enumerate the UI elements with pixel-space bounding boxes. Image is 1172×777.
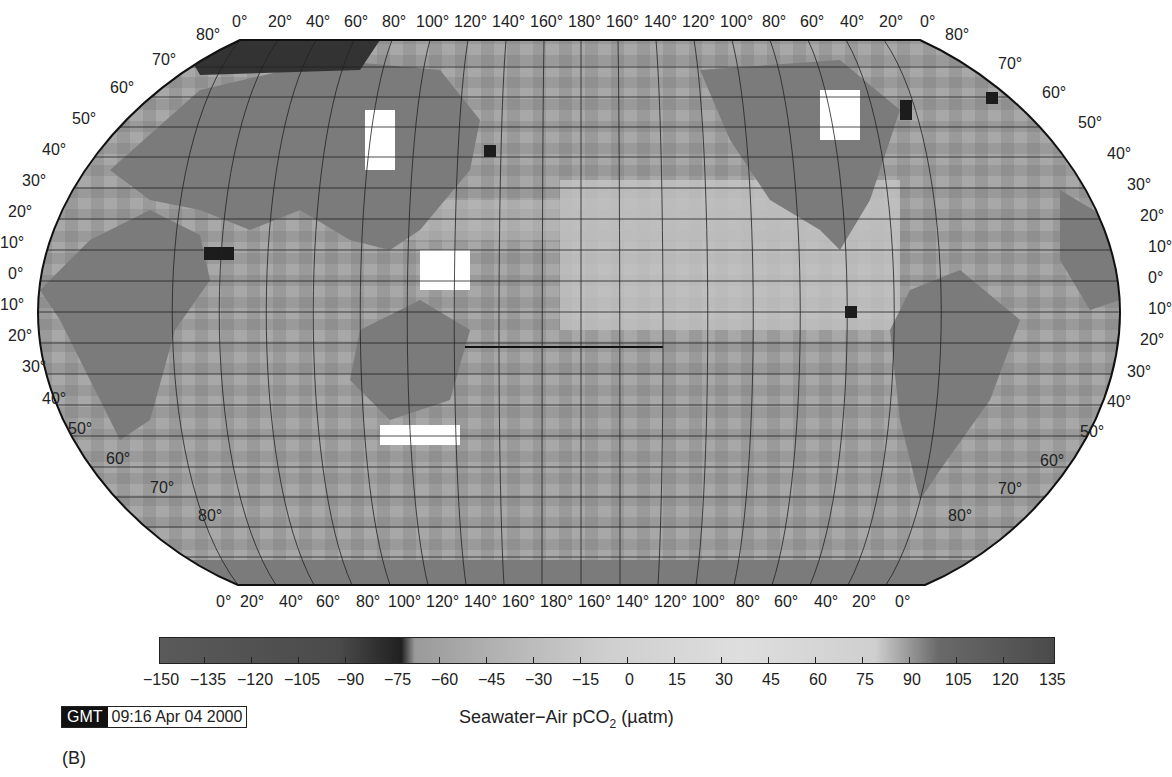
colorbar-tick-label: 120 — [992, 672, 1019, 688]
lat-label: 40° — [42, 391, 66, 407]
lat-label: 60° — [106, 451, 130, 467]
lon-label: 80° — [356, 594, 380, 610]
colorbar-tick — [580, 657, 581, 663]
colorbar-tick — [486, 657, 487, 663]
lon-label: 80° — [382, 14, 406, 30]
panel-label: (B) — [62, 748, 86, 769]
lat-label: 10° — [1148, 239, 1172, 255]
lon-label: 0° — [216, 594, 231, 610]
lat-label: 50° — [72, 111, 96, 127]
lon-label: 180° — [540, 594, 573, 610]
lon-label: 120° — [454, 14, 487, 30]
world-map — [0, 0, 1172, 630]
lon-label: 160° — [578, 594, 611, 610]
colorbar-tick-label: 60 — [809, 672, 827, 688]
colorbar-tick — [768, 657, 769, 663]
colorbar-tick-label: −150 — [143, 672, 179, 688]
colorbar-tick — [627, 657, 628, 663]
lon-label: 20° — [879, 14, 903, 30]
lat-label: 70° — [998, 56, 1022, 72]
lon-label: 160° — [502, 594, 535, 610]
colorbar-tick-label: 75 — [856, 672, 874, 688]
lat-label: 50° — [1078, 115, 1102, 131]
colorbar-tick-label: 105 — [945, 672, 972, 688]
colorbar-tick — [251, 657, 252, 663]
lon-label: 20° — [268, 14, 292, 30]
lat-label: 40° — [42, 142, 66, 158]
colorbar-tick — [439, 657, 440, 663]
colorbar-tick — [815, 657, 816, 663]
lat-label: 20° — [8, 328, 32, 344]
colorbar-tick-label: 30 — [715, 672, 733, 688]
lat-label: 80° — [945, 27, 969, 43]
lon-label: 40° — [814, 594, 838, 610]
lon-label: 100° — [692, 594, 725, 610]
lat-label: 30° — [1127, 364, 1151, 380]
colorbar-tick — [204, 657, 205, 663]
lat-label: 30° — [22, 173, 46, 189]
lon-label: 0° — [895, 594, 910, 610]
lon-label: 120° — [654, 594, 687, 610]
lon-label: 80° — [762, 14, 786, 30]
colorbar-tick-label: −15 — [572, 672, 599, 688]
lon-label: 140° — [644, 14, 677, 30]
lat-label: 70° — [152, 52, 176, 68]
lon-label: 60° — [774, 594, 798, 610]
lat-label: 50° — [1080, 424, 1104, 440]
colorbar-tick-label: 135 — [1039, 672, 1066, 688]
lon-label: 0° — [232, 14, 247, 30]
colorbar-tick — [1003, 657, 1004, 663]
lat-label: 70° — [998, 481, 1022, 497]
colorbar-title-text: Seawater−Air pCO — [459, 707, 610, 727]
colorbar-tick-label: −60 — [431, 672, 458, 688]
colorbar-tick — [956, 657, 957, 663]
lon-label: 140° — [464, 594, 497, 610]
lat-label: 10° — [0, 297, 24, 313]
lat-label: 10° — [0, 235, 24, 251]
lon-label: 40° — [840, 14, 864, 30]
colorbar-tick — [909, 657, 910, 663]
lon-label: 180° — [568, 14, 601, 30]
colorbar-tick-label: −120 — [237, 672, 273, 688]
lat-label: 80° — [948, 508, 972, 524]
colorbar-tick — [345, 657, 346, 663]
lat-label: 60° — [1042, 85, 1066, 101]
gmt-label: GMT — [62, 707, 108, 727]
lon-label: 140° — [492, 14, 525, 30]
colorbar-tick — [862, 657, 863, 663]
lon-label: 80° — [736, 594, 760, 610]
colorbar-tick-label: −135 — [190, 672, 226, 688]
lon-label: 20° — [240, 594, 264, 610]
lon-label: 120° — [426, 594, 459, 610]
colorbar-tick-label: −105 — [284, 672, 320, 688]
colorbar-tick-label: −30 — [525, 672, 552, 688]
colorbar-tick — [721, 657, 722, 663]
lat-label: 0° — [1148, 270, 1163, 286]
lat-label: 30° — [22, 359, 46, 375]
colorbar-tick — [533, 657, 534, 663]
lon-label: 160° — [606, 14, 639, 30]
colorbar-tick — [298, 657, 299, 663]
lat-label: 70° — [150, 480, 174, 496]
lon-label: 60° — [344, 14, 368, 30]
lon-label: 100° — [720, 14, 753, 30]
colorbar-tick-label: 0 — [625, 672, 634, 688]
colorbar-tick-label: −90 — [337, 672, 364, 688]
lon-label: 60° — [316, 594, 340, 610]
lon-label: 60° — [800, 14, 824, 30]
lon-label: 100° — [416, 14, 449, 30]
lon-label: 100° — [388, 594, 421, 610]
lat-label: 50° — [68, 421, 92, 437]
lat-label: 10° — [1148, 301, 1172, 317]
colorbar-tick-label: −45 — [478, 672, 505, 688]
timestamp-stamp: GMT 09:16 Apr 04 2000 — [61, 706, 247, 728]
lon-label: 140° — [616, 594, 649, 610]
colorbar-title-units: (µatm) — [616, 707, 673, 727]
lon-label: 40° — [279, 594, 303, 610]
lat-label: 80° — [198, 508, 222, 524]
lon-label: 20° — [852, 594, 876, 610]
lat-label: 20° — [1140, 332, 1164, 348]
colorbar-tick-label: 15 — [668, 672, 686, 688]
lat-label: 60° — [1040, 453, 1064, 469]
gmt-value: 09:16 Apr 04 2000 — [108, 707, 247, 727]
